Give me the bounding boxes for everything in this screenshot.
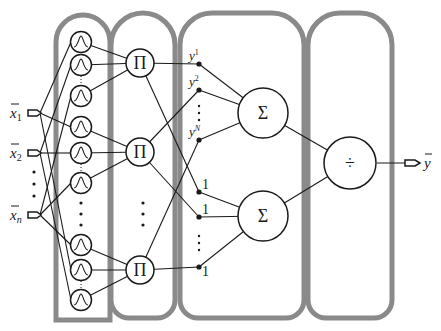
product-to-weight-edges (140, 63, 199, 270)
svg-text:÷: ÷ (345, 153, 355, 173)
gaussian-node (71, 117, 92, 138)
divide-node: ÷ (324, 137, 376, 189)
input-xn: xn (9, 206, 41, 225)
svg-text:Σ: Σ (258, 103, 268, 123)
svg-text:Π: Π (134, 53, 147, 73)
output-label: y (422, 155, 431, 171)
input-x2-label: x2 (9, 145, 22, 163)
weight-ellipsis-top (198, 105, 200, 121)
weights: y1 y2 yN 1 1 1 (187, 48, 209, 279)
gaussian-node (71, 235, 92, 256)
svg-text:Σ: Σ (258, 206, 268, 226)
sum-nodes: Σ Σ (238, 88, 288, 241)
product-node: Π (126, 49, 154, 77)
membership-nodes (71, 32, 92, 311)
input-x2: x2 (9, 144, 41, 163)
gaussian-node (71, 143, 92, 164)
weight-one-label: 1 (202, 177, 209, 192)
sum-layer-capsule (180, 13, 304, 318)
output: y (405, 154, 432, 171)
weight-yN-label: yN (187, 124, 201, 139)
input-xn-label: xn (9, 207, 22, 225)
product-ellipsis (141, 201, 144, 226)
gaussian-node (71, 290, 92, 311)
sum-node: Σ (238, 88, 288, 138)
svg-text:Π: Π (134, 260, 147, 280)
gaussian-node (71, 86, 92, 107)
membership-ellipsis (79, 201, 82, 226)
weight-y2-label: y2 (187, 74, 199, 89)
inputs: x1 x2 xn (9, 104, 41, 225)
input-ellipsis (32, 170, 35, 197)
gaussian-node (71, 32, 92, 53)
sum-node: Σ (238, 191, 288, 241)
product-node: Π (126, 138, 154, 166)
gaussian-node (71, 55, 92, 76)
gaussian-node (71, 173, 92, 194)
weight-y1-label: y1 (187, 48, 199, 63)
product-node: Π (126, 256, 154, 284)
weight-one-label: 1 (202, 264, 209, 279)
gaussian-node (71, 260, 92, 281)
weight-ellipsis-bottom (198, 235, 200, 251)
svg-text:Π: Π (134, 142, 147, 162)
input-x1-label: x1 (9, 105, 22, 123)
fuzzy-network-diagram: x1 x2 xn (0, 0, 441, 331)
input-x1: x1 (9, 104, 41, 123)
weight-one-label: 1 (202, 202, 209, 217)
